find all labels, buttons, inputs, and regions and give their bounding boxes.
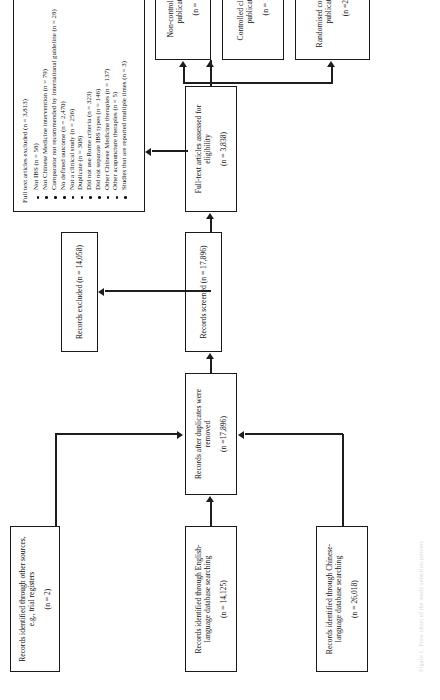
arrowhead-eligibility-to-fulltext-excluded: [145, 148, 151, 156]
list-item: Comparator not recommended by internatio…: [50, 9, 58, 190]
node-english-source-title: Records identified through English-langu…: [194, 531, 213, 667]
fulltext-excluded-reason-list: Not IBS (n = 58) Not Chinese Medicine in…: [32, 9, 129, 203]
connector-screened-to-records-excluded: [105, 291, 211, 293]
node-fulltext-eligibility: Full-text articles assessed for eligibil…: [185, 86, 237, 212]
node-fulltext-excluded-title: Full text articles excluded (n = 3,813): [21, 99, 29, 203]
connector-other-to-duplicates-h: [55, 434, 57, 526]
node-randomised-controlled-trial: Randomised controlled trial publications…: [295, 0, 370, 60]
list-item: Not Chinese Medicine intervention (n = 7…: [41, 9, 49, 190]
prisma-flow-diagram: Records identified through other sources…: [0, 0, 440, 700]
connector-screened-to-eligibility: [210, 219, 212, 232]
node-controlled-clinical-trial-count: (n = 1): [261, 0, 270, 15]
node-randomised-controlled-trial-title: Randomised controlled trial publications: [315, 0, 334, 55]
list-item: Did not separate IBS types (n = 146): [94, 9, 102, 190]
node-records-screened: Records screened (n = 17,896): [185, 232, 222, 352]
node-records-excluded-title: Records excluded (n = 14,058): [75, 245, 84, 339]
list-item: No defined outcome (n = 2,470): [59, 9, 67, 190]
arrowhead-other-to-duplicates: [177, 431, 183, 439]
arrowhead-english-to-duplicates: [206, 496, 214, 502]
list-item: Other acupuncture therapies (n = 5): [111, 9, 119, 190]
arrowhead-chinese-to-duplicates: [238, 431, 244, 439]
arrowhead-screened-to-eligibility: [206, 213, 214, 219]
node-non-controlled-study-count: (n = 1): [191, 0, 200, 15]
connector-to-non-controlled: [183, 67, 185, 84]
node-other-sources-title: Records identified through other sources…: [18, 531, 37, 667]
list-item: Other Chinese Medicine therapies (n = 13…: [103, 9, 111, 190]
node-duplicates-removed-count: (n =17,896): [219, 416, 228, 452]
node-controlled-clinical-trial-title: Controlled clinical trial publications: [236, 0, 255, 55]
list-item: Not IBS (n = 58): [32, 9, 40, 190]
list-item: Did not use Rome criteria (n = 323): [85, 9, 93, 190]
node-randomised-controlled-trial-count: (n =23): [341, 0, 350, 16]
node-english-source: Records identified through English-langu…: [185, 526, 237, 672]
figure-caption: Figure 1. Flow chart of the study select…: [418, 541, 424, 672]
node-records-screened-title: Records screened (n = 17,896): [199, 245, 208, 338]
node-controlled-clinical-trial: Controlled clinical trial publications (…: [222, 0, 284, 60]
arrowhead-to-controlled-clinical: [206, 61, 214, 67]
connector-chinese-to-duplicates-v: [245, 434, 343, 436]
connector-other-to-duplicates-v: [55, 434, 177, 436]
arrowhead-to-randomised-controlled: [327, 61, 335, 67]
node-fulltext-eligibility-title: Full-text articles assessed for eligibil…: [194, 91, 213, 207]
node-records-excluded: Records excluded (n = 14,058): [61, 232, 98, 352]
node-chinese-source-title: Records identified through Chinese-langu…: [325, 531, 344, 667]
node-non-controlled-study: Non-controlled study publications (n = 1…: [155, 0, 211, 60]
node-chinese-source: Records identified through Chinese-langu…: [316, 526, 368, 672]
arrowhead-to-non-controlled: [179, 61, 187, 67]
node-non-controlled-study-title: Non-controlled study publications: [166, 0, 185, 55]
connector-english-to-duplicates: [210, 502, 212, 526]
list-item: Studies that are reported multiple times…: [120, 9, 128, 190]
list-item: Not a clinical study (n = 256): [68, 9, 76, 190]
connector-eligibility-to-fulltext-excluded: [152, 151, 188, 153]
node-fulltext-eligibility-count: (n = 3,838): [219, 132, 228, 166]
node-other-sources-count: (n = 2): [43, 589, 52, 610]
list-item: Duplicate (n = 308): [76, 9, 84, 190]
connector-to-randomised-controlled: [331, 67, 333, 84]
node-fulltext-excluded: Full text articles excluded (n = 3,813) …: [13, 0, 145, 212]
connector-outcome-split-vertical: [183, 83, 332, 85]
node-duplicates-removed: Records after duplicates were removed (n…: [185, 373, 237, 495]
arrowhead-duplicates-to-screened: [206, 353, 214, 359]
node-other-sources: Records identified through other sources…: [10, 526, 60, 672]
node-duplicates-removed-title: Records after duplicates were removed: [194, 378, 213, 490]
arrowhead-screened-to-records-excluded: [98, 288, 104, 296]
node-english-source-count: (n = 14,125): [219, 580, 228, 618]
connector-duplicates-to-screened: [210, 359, 212, 373]
connector-chinese-to-duplicates-h: [342, 434, 344, 526]
node-chinese-source-count: (n = 26,018): [350, 580, 359, 618]
